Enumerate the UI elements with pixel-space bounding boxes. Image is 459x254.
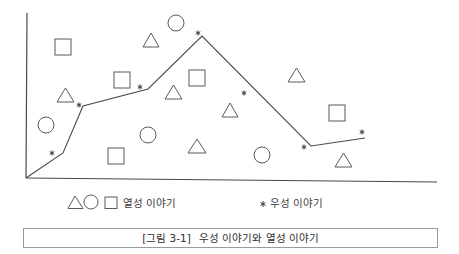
dominant-story-asterisk-icon xyxy=(242,90,247,95)
recessive-story-square xyxy=(108,148,124,164)
x-axis xyxy=(26,178,437,182)
recessive-story-triangle xyxy=(57,88,74,102)
legend-recessive-label: 열성 이야기 xyxy=(123,196,176,210)
recessive-story-triangle xyxy=(143,33,159,47)
dominant-story-line xyxy=(26,36,365,178)
recessive-story-triangle xyxy=(335,153,352,167)
recessive-story-triangle xyxy=(188,139,206,153)
recessive-story-square xyxy=(55,39,71,55)
dominant-story-asterisk-icon xyxy=(50,150,55,155)
dominant-story-asterisk-icon xyxy=(77,102,82,107)
recessive-story-square xyxy=(189,70,205,86)
caption-title: 우성 이야기와 열성 이야기 xyxy=(199,232,319,244)
recessive-story-circle xyxy=(168,15,184,31)
recessive-story-circle xyxy=(38,117,54,133)
diagram-plot xyxy=(0,0,459,254)
recessive-story-circle xyxy=(254,147,270,163)
recessive-story-triangle xyxy=(288,68,305,82)
recessive-story-circle xyxy=(140,127,156,143)
square-icon xyxy=(104,196,118,210)
dominant-story-markers xyxy=(50,30,365,155)
y-axis xyxy=(26,13,27,178)
dominant-story-asterisk-icon xyxy=(302,144,307,149)
dominant-story-asterisk-icon xyxy=(196,30,201,35)
circle-icon xyxy=(83,194,99,210)
asterisk-icon xyxy=(259,200,267,208)
figure-caption: [그림 3-1]우성 이야기와 열성 이야기 xyxy=(23,228,438,248)
recessive-story-shapes xyxy=(38,15,352,167)
recessive-story-square xyxy=(329,105,345,121)
dominant-story-asterisk-icon xyxy=(138,84,143,89)
legend-dominant-label: 우성 이야기 xyxy=(270,196,323,210)
dominant-story-asterisk-icon xyxy=(360,129,365,134)
recessive-story-triangle xyxy=(222,103,238,117)
figure: 열성 이야기 우성 이야기 [그림 3-1]우성 이야기와 열성 이야기 xyxy=(0,0,459,254)
recessive-story-square xyxy=(114,72,130,88)
recessive-story-triangle xyxy=(165,85,182,99)
triangle-icon xyxy=(67,195,84,210)
caption-number: [그림 3-1] xyxy=(142,232,191,244)
